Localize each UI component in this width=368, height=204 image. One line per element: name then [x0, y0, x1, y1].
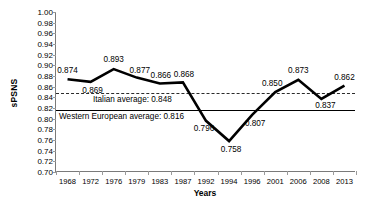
data-point-label: 0.877	[130, 66, 151, 75]
data-point-label: 0.807	[245, 119, 266, 128]
y-tick-label: 0.74	[25, 146, 53, 155]
y-tick-label: 0.72	[25, 157, 53, 166]
y-tick-label: 1.00	[25, 8, 53, 17]
y-tick-label: 0.88	[25, 72, 53, 81]
y-tick-label: 0.70	[25, 168, 53, 177]
data-point-label: 0.837	[315, 101, 336, 110]
y-tick-label: 0.98	[25, 18, 53, 27]
x-tick-label: 1992	[198, 177, 215, 186]
y-tick-label: 0.82	[25, 104, 53, 113]
x-tick-label: 2006	[290, 177, 307, 186]
y-tick-label: 0.92	[25, 50, 53, 59]
x-tick-label: 1968	[59, 177, 76, 186]
x-tick-label: 1979	[128, 177, 145, 186]
y-axis-title: sPSNS	[9, 63, 19, 123]
y-tick-label: 0.76	[25, 136, 53, 145]
data-point-label: 0.873	[288, 66, 309, 75]
x-tick-label: 2008	[313, 177, 330, 186]
chart-container: sPSNS Years 1.000.980.960.940.920.900.88…	[0, 0, 368, 204]
x-tick-label: 1994	[221, 177, 238, 186]
x-tick-label: 1983	[151, 177, 168, 186]
x-tick-label: 2013	[336, 177, 353, 186]
x-tick-label: 1996	[244, 177, 261, 186]
y-tick-label: 0.80	[25, 114, 53, 123]
y-tick-label: 0.84	[25, 93, 53, 102]
data-point-label: 0.866	[151, 71, 172, 80]
x-tick-label: 1972	[82, 177, 99, 186]
data-point-label: 0.868	[174, 70, 195, 79]
x-tick-label: 1976	[105, 177, 122, 186]
data-point-label: 0.850	[262, 79, 283, 88]
data-point-label: 0.796	[194, 124, 215, 133]
x-tick-label: 2001	[267, 177, 284, 186]
data-point-label: 0.758	[221, 145, 242, 154]
y-tick-label: 0.78	[25, 125, 53, 134]
data-point-label: 0.893	[103, 55, 124, 64]
x-tick-mark	[356, 171, 357, 175]
y-tick-label: 0.94	[25, 40, 53, 49]
plot-area: 1.000.980.960.940.920.900.880.860.840.82…	[55, 12, 355, 172]
y-tick-label: 0.90	[25, 61, 53, 70]
x-axis-title: Years	[55, 188, 355, 198]
y-tick-label: 0.86	[25, 82, 53, 91]
x-tick-label: 1987	[174, 177, 191, 186]
data-point-label: 0.862	[334, 73, 355, 82]
y-tick-label: 0.96	[25, 29, 53, 38]
data-point-label: 0.874	[57, 66, 78, 75]
data-point-label: 0.869	[82, 86, 103, 95]
